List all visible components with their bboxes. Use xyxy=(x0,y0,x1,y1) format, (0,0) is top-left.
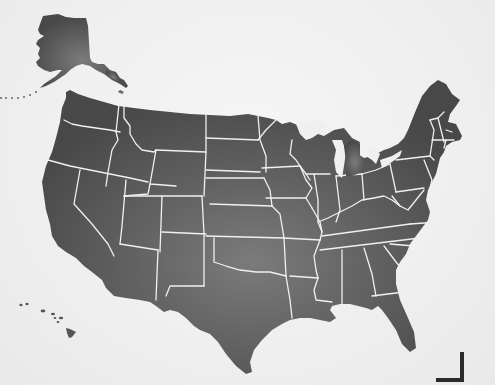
hawaii xyxy=(19,303,76,338)
contiguous-us xyxy=(42,80,462,374)
crop-mark-horizontal xyxy=(436,378,464,382)
alaska xyxy=(0,14,128,99)
map-canvas xyxy=(0,0,495,385)
us-map xyxy=(0,0,495,385)
aleutian-islands xyxy=(0,91,37,99)
